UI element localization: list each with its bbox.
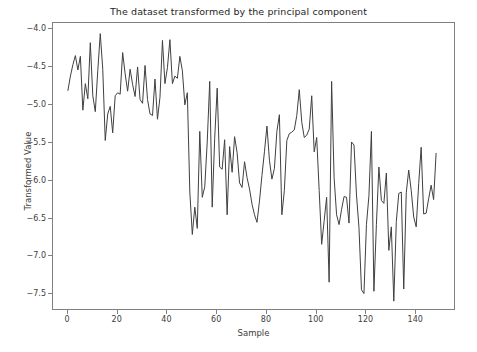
y-tick-mark: [48, 142, 52, 143]
y-tick-mark: [48, 293, 52, 294]
chart-title: The dataset transformed by the principal…: [0, 6, 477, 17]
x-tick-label: 140: [398, 315, 432, 324]
x-tick-label: 80: [249, 315, 283, 324]
x-tick-mark: [117, 310, 118, 314]
x-tick-mark: [266, 310, 267, 314]
x-tick-mark: [166, 310, 167, 314]
y-axis-label: Transformed Value: [23, 91, 33, 251]
chart-figure: The dataset transformed by the principal…: [0, 0, 477, 352]
x-tick-mark: [415, 310, 416, 314]
y-tick-label: −4.0: [16, 24, 46, 33]
x-tick-label: 0: [50, 315, 84, 324]
y-tick-mark: [48, 66, 52, 67]
x-tick-label: 40: [149, 315, 183, 324]
plot-area: [52, 22, 455, 310]
y-tick-label: −7.0: [16, 251, 46, 260]
y-tick-mark: [48, 218, 52, 219]
x-tick-mark: [365, 310, 366, 314]
x-tick-label: 100: [299, 315, 333, 324]
x-tick-label: 20: [100, 315, 134, 324]
x-axis-tick-labels: 020406080100120140: [52, 315, 455, 327]
line-plot-svg: [53, 23, 456, 311]
y-tick-label: −4.5: [16, 61, 46, 70]
data-series-line: [68, 34, 436, 302]
x-tick-label: 60: [199, 315, 233, 324]
x-tick-mark: [67, 310, 68, 314]
y-tick-mark: [48, 255, 52, 256]
x-tick-mark: [216, 310, 217, 314]
x-tick-mark: [316, 310, 317, 314]
y-tick-mark: [48, 28, 52, 29]
x-tick-label: 120: [348, 315, 382, 324]
y-tick-mark: [48, 180, 52, 181]
y-tick-label: −7.5: [16, 289, 46, 298]
y-tick-mark: [48, 104, 52, 105]
x-axis-label: Sample: [52, 328, 455, 338]
